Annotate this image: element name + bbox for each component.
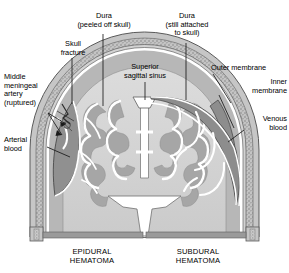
label-venous-blood: Venous blood <box>221 115 287 132</box>
hematoma-comparison-figure: Dura (peeled off skull) Dura (still atta… <box>0 0 289 273</box>
label-superior-sagittal-sinus: Superior sagittal sinus <box>112 63 178 80</box>
label-dura-attached: Dura (still attached to skull) <box>158 12 216 38</box>
artery-rupture-point <box>64 122 71 129</box>
label-arterial-blood: Arterial blood <box>4 136 52 153</box>
label-outer-membrane: Outer membrane <box>211 64 289 73</box>
label-middle-meningeal-artery: Middle meningeal artery (ruptured) <box>4 73 60 107</box>
label-skull-fracture: Skull fracture <box>48 40 98 57</box>
label-inner-membrane: Inner membrane <box>211 78 287 95</box>
caption-subdural-hematoma: SUBDURAL HEMATOMA <box>148 247 248 266</box>
label-dura-peeled: Dura (peeled off skull) <box>74 12 134 29</box>
caption-epidural-hematoma: EPIDURAL HEMATOMA <box>42 247 142 266</box>
